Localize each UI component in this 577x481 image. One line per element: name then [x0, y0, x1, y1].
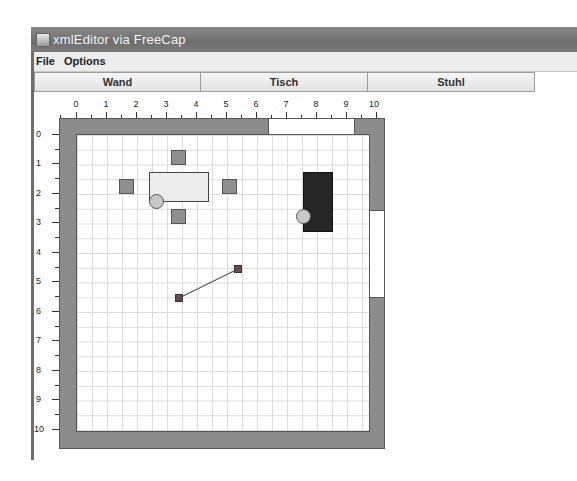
wall-segment-line	[0, 0, 577, 481]
segment-endpoint-handle[interactable]	[175, 294, 183, 302]
segment-endpoint-handle[interactable]	[234, 265, 242, 273]
